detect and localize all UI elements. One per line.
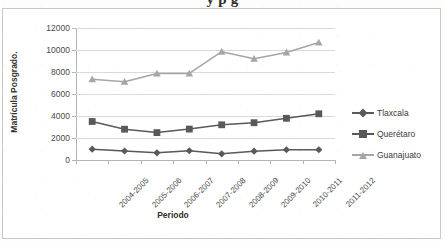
cut-off-heading-text: y p g — [0, 0, 445, 7]
y-tick-label: 4000 — [51, 111, 70, 121]
x-category-label: 2009-2010 — [279, 176, 312, 209]
diamond-marker-icon — [352, 107, 374, 119]
x-category-label: 2007-2008 — [215, 176, 248, 209]
y-tick-label: 6000 — [51, 89, 70, 99]
series-plot — [76, 20, 335, 172]
legend-item-querétaro[interactable]: Querétaro — [352, 123, 444, 144]
x-tick — [335, 160, 336, 164]
series-querétaro — [89, 110, 322, 136]
x-category-label: 2006-2007 — [182, 176, 215, 209]
chart-object-frame: Matrícula Posgrado. 02000400060008000100… — [2, 8, 441, 239]
chart-legend: TlaxcalaQuerétaroGuanajuato — [352, 102, 444, 165]
x-category-label: 2004-2005 — [117, 176, 150, 209]
series-tlaxcala — [89, 146, 323, 158]
legend-label: Tlaxcala — [377, 108, 409, 118]
x-category-label: 2011-2012 — [344, 176, 377, 209]
legend-item-guanajuato[interactable]: Guanajuato — [352, 144, 444, 165]
x-category-label: 2010-2011 — [311, 176, 344, 209]
y-tick-label: 8000 — [51, 67, 70, 77]
legend-item-tlaxcala[interactable]: Tlaxcala — [352, 102, 444, 123]
legend-label: Guanajuato — [377, 150, 421, 160]
y-tick-label: 10000 — [46, 45, 70, 55]
y-tick-label: 12000 — [46, 23, 70, 33]
y-tick-label: 2000 — [51, 133, 70, 143]
plot-area: 020004000600080001000012000 2004-2005200… — [76, 20, 335, 160]
x-category-label: 2005-2006 — [150, 176, 183, 209]
legend-label: Querétaro — [377, 129, 415, 139]
series-guanajuato — [88, 39, 322, 85]
x-axis-title: Periodo — [3, 210, 343, 220]
triangle-marker-icon — [352, 149, 374, 161]
square-marker-icon — [352, 128, 374, 140]
x-category-label: 2008-2009 — [247, 176, 280, 209]
y-axis-title: Matrícula Posgrado. — [9, 51, 19, 132]
y-tick-label: 0 — [65, 155, 70, 165]
